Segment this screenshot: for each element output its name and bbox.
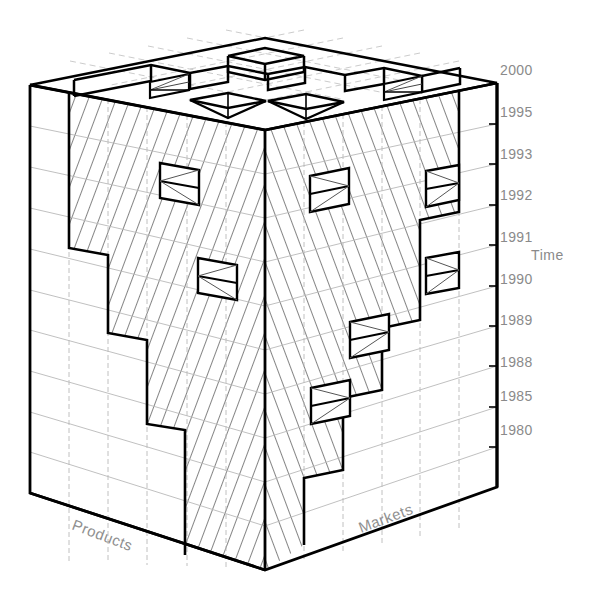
right-face-cavity-5 [311, 380, 350, 424]
right-face-cavity-3 [426, 252, 459, 294]
cube-right-face [265, 83, 497, 570]
time-tick-1993: 1993 [500, 146, 533, 162]
time-tick-1980: 1980 [500, 422, 533, 438]
figure-root: 2000 1995 1993 1992 1991 1990 1989 1988 … [0, 0, 594, 608]
time-tick-1985: 1985 [500, 388, 533, 404]
cube-left-face [30, 85, 265, 570]
time-tick-1995: 1995 [500, 104, 533, 120]
axis-label-time: Time [531, 247, 564, 263]
right-face-cavity-4 [350, 314, 389, 358]
right-face-cavity-2 [426, 165, 459, 207]
right-face-cavity-1 [310, 168, 349, 212]
data-cube-illustration [0, 0, 594, 608]
time-tick-2000: 2000 [500, 62, 533, 78]
time-tick-1992: 1992 [500, 187, 533, 203]
left-face-cavity-1 [160, 163, 199, 205]
time-tick-1989: 1989 [500, 312, 533, 328]
time-tick-1991: 1991 [500, 229, 533, 245]
time-tick-1990: 1990 [500, 271, 533, 287]
left-face-cavity-2 [198, 258, 237, 300]
time-tick-1988: 1988 [500, 354, 533, 370]
